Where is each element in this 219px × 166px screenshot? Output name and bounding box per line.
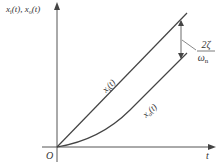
ramp-response-diagram: 2ζ ωn xi(t), xo(t) O t xi(t) xo(t) — [0, 0, 219, 166]
x-axis-label: t — [206, 150, 209, 161]
origin-label: O — [46, 150, 53, 161]
error-leader-line — [182, 40, 196, 50]
input-ramp-line — [57, 13, 187, 147]
error-numerator: 2ζ — [201, 39, 211, 51]
y-axis-label: xi(t), xo(t) — [5, 4, 40, 15]
output-curve-label: xo(t) — [140, 102, 160, 121]
error-denominator: ωn — [198, 52, 209, 65]
output-response-curve — [57, 53, 187, 147]
